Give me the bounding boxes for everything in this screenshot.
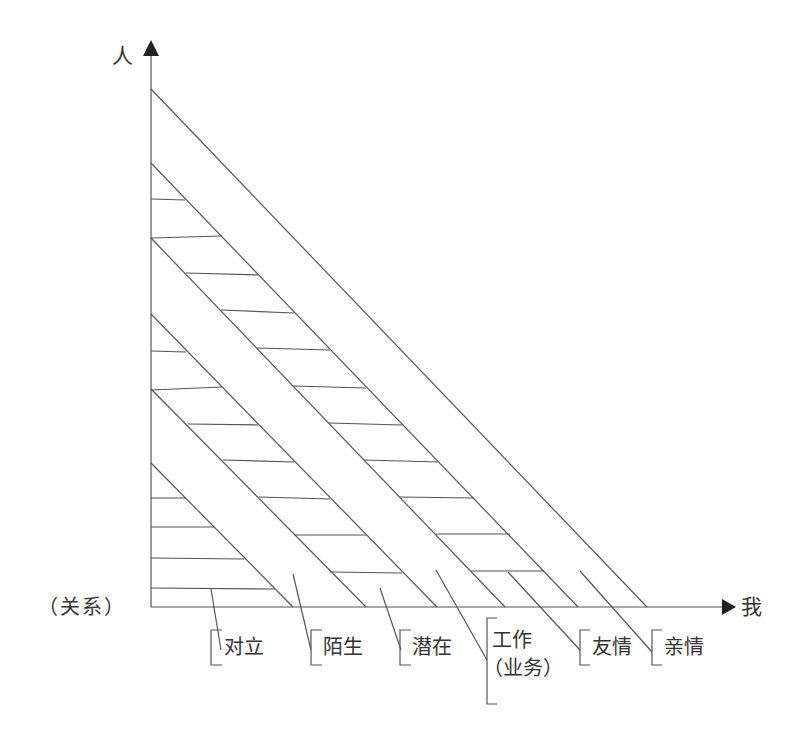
pointer-opposition [211,589,221,650]
band-label-potential: 潜在 [412,637,452,657]
x-axis-arrow-icon [722,599,736,615]
bracket-stranger [311,630,322,665]
diagonal-line-6 [151,463,293,607]
bracket-potential [400,630,411,665]
diagonal-line-2 [151,163,578,607]
bracket-family [652,630,662,665]
hatch-band-opposition [151,498,275,589]
band-label-family: 亲情 [664,637,704,657]
band-label-stranger: 陌生 [323,637,363,657]
pointer-potential [380,588,401,650]
relationship-label: （关系） [38,597,126,617]
band-label-work-sub: （业务） [483,658,563,678]
band-label-opposition: 对立 [224,637,264,657]
band-label-friendship: 友情 [592,637,632,657]
y-axis-arrow-icon [143,40,159,56]
band-label-work: 工作 [492,630,532,650]
pointer-stranger [293,574,311,650]
diagonal-line-3 [151,238,505,607]
x-axis-label: 我 [741,597,762,618]
diagonal-line-1 [151,89,647,607]
y-axis-label: 人 [112,46,133,67]
bracket-friendship [580,630,590,665]
